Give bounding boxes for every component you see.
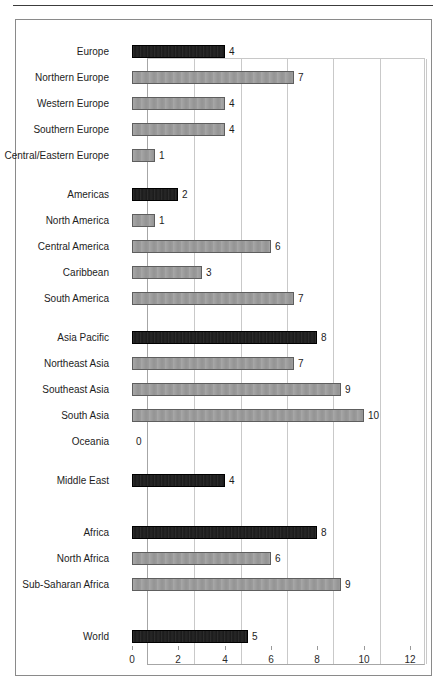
tick-mark-6 bbox=[271, 646, 272, 650]
chart-row: Caribbean3 bbox=[16, 260, 431, 286]
category-label: Central America bbox=[0, 234, 109, 260]
bar-value-label: 2 bbox=[182, 182, 188, 208]
bar-value-label: 4 bbox=[229, 468, 235, 494]
bar-value-label: 1 bbox=[159, 143, 165, 169]
chart-row: North America1 bbox=[16, 208, 431, 234]
chart-row: Central America6 bbox=[16, 234, 431, 260]
chart-row: North Africa6 bbox=[16, 546, 431, 572]
bar-value-label: 9 bbox=[345, 377, 351, 403]
bar-track: 9 bbox=[132, 377, 410, 403]
chart-row: Oceania0 bbox=[16, 429, 431, 455]
bar-track: 7 bbox=[132, 286, 410, 312]
category-label: Southern Europe bbox=[0, 117, 109, 143]
bar-value-label: 6 bbox=[275, 234, 281, 260]
category-label: North America bbox=[0, 208, 109, 234]
bar[interactable] bbox=[132, 474, 225, 487]
category-label: Southeast Asia bbox=[0, 377, 109, 403]
bar-track: 1 bbox=[132, 208, 410, 234]
chart-row: World5 bbox=[16, 624, 431, 650]
bar-track: 4 bbox=[132, 91, 410, 117]
chart-row: Northern Europe7 bbox=[16, 65, 431, 91]
bar-track: 3 bbox=[132, 260, 410, 286]
x-axis-tick-label: 10 bbox=[349, 654, 379, 666]
bar[interactable] bbox=[132, 526, 317, 539]
x-axis-tick-label: 0 bbox=[117, 654, 147, 666]
category-label: Oceania bbox=[0, 429, 109, 455]
bar[interactable] bbox=[132, 188, 178, 201]
chart-row: South Asia10 bbox=[16, 403, 431, 429]
bar-track: 9 bbox=[132, 572, 410, 598]
bar-value-label: 10 bbox=[368, 403, 379, 429]
category-label: Western Europe bbox=[0, 91, 109, 117]
category-label: World bbox=[0, 624, 109, 650]
chart-row: Southern Europe4 bbox=[16, 117, 431, 143]
bar[interactable] bbox=[132, 97, 225, 110]
chart-row: Americas2 bbox=[16, 182, 431, 208]
bar-value-label: 4 bbox=[229, 39, 235, 65]
tick-mark-2 bbox=[178, 646, 179, 650]
x-axis-tick-label: 2 bbox=[163, 654, 193, 666]
chart-row: Western Europe4 bbox=[16, 91, 431, 117]
x-axis-tick-label: 4 bbox=[210, 654, 240, 666]
bar-value-label: 8 bbox=[321, 325, 327, 351]
bar-value-label: 8 bbox=[321, 520, 327, 546]
bar-value-label: 4 bbox=[229, 117, 235, 143]
category-label: Central/Eastern Europe bbox=[0, 143, 109, 169]
x-axis-tick-label: 6 bbox=[256, 654, 286, 666]
bar[interactable] bbox=[132, 630, 248, 643]
chart-row: Northeast Asia7 bbox=[16, 351, 431, 377]
bar[interactable] bbox=[132, 149, 155, 162]
bar-value-label: 9 bbox=[345, 572, 351, 598]
category-label: North Africa bbox=[0, 546, 109, 572]
bar-value-label: 7 bbox=[298, 351, 304, 377]
tick-mark-8 bbox=[317, 646, 318, 650]
bar-track: 2 bbox=[132, 182, 410, 208]
bar[interactable] bbox=[132, 409, 364, 422]
bar-track: 7 bbox=[132, 351, 410, 377]
chart-row: Middle East4 bbox=[16, 468, 431, 494]
bar-track: 8 bbox=[132, 520, 410, 546]
category-label: Northeast Asia bbox=[0, 351, 109, 377]
bar[interactable] bbox=[132, 383, 341, 396]
bar-value-label: 1 bbox=[159, 208, 165, 234]
bar-track: 0 bbox=[132, 429, 410, 455]
chart-row: Central/Eastern Europe1 bbox=[16, 143, 431, 169]
chart-row: South America7 bbox=[16, 286, 431, 312]
category-label: Africa bbox=[0, 520, 109, 546]
category-label: South America bbox=[0, 286, 109, 312]
bar-track: 4 bbox=[132, 468, 410, 494]
bar-value-label: 0 bbox=[136, 429, 142, 455]
bar[interactable] bbox=[132, 266, 202, 279]
bar[interactable] bbox=[132, 331, 317, 344]
category-label: South Asia bbox=[0, 403, 109, 429]
bar[interactable] bbox=[132, 292, 294, 305]
bar-track: 4 bbox=[132, 117, 410, 143]
chart-row: Southeast Asia9 bbox=[16, 377, 431, 403]
bar[interactable] bbox=[132, 578, 341, 591]
bar-track: 1 bbox=[132, 143, 410, 169]
bar-value-label: 6 bbox=[275, 546, 281, 572]
category-label: Caribbean bbox=[0, 260, 109, 286]
bar[interactable] bbox=[132, 45, 225, 58]
bar-track: 6 bbox=[132, 546, 410, 572]
bar-track: 10 bbox=[132, 403, 410, 429]
bar[interactable] bbox=[132, 552, 271, 565]
bar-track: 8 bbox=[132, 325, 410, 351]
bar[interactable] bbox=[132, 357, 294, 370]
tick-mark-12 bbox=[410, 646, 411, 650]
bar-value-label: 7 bbox=[298, 286, 304, 312]
tick-mark-10 bbox=[364, 646, 365, 650]
bar[interactable] bbox=[132, 240, 271, 253]
category-label: Sub-Saharan Africa bbox=[0, 572, 109, 598]
figure-border: Europe4Northern Europe7Western Europe4So… bbox=[15, 19, 432, 676]
chart-row: Sub-Saharan Africa9 bbox=[16, 572, 431, 598]
category-label: Northern Europe bbox=[0, 65, 109, 91]
bar[interactable] bbox=[132, 214, 155, 227]
bar[interactable] bbox=[132, 71, 294, 84]
bar[interactable] bbox=[132, 123, 225, 136]
category-label: Middle East bbox=[0, 468, 109, 494]
tick-mark-4 bbox=[225, 646, 226, 650]
bar-value-label: 4 bbox=[229, 91, 235, 117]
bar-track: 7 bbox=[132, 65, 410, 91]
bar-value-label: 3 bbox=[206, 260, 212, 286]
